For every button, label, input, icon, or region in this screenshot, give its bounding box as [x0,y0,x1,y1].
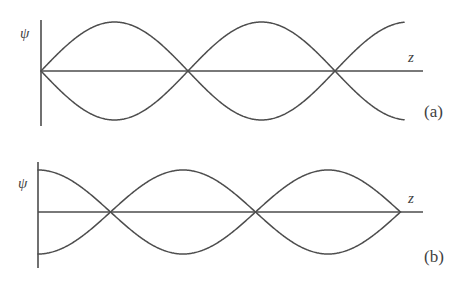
panel-b-z-axis-label: z [407,190,414,206]
panel-b: ψ z (b) [18,162,444,268]
panel-b-label: (b) [424,247,444,266]
panel-a: ψ z (a) [20,20,443,126]
panel-a-psi-axis-label: ψ [20,25,30,41]
wavefunction-figure: ψ z (a) ψ z (b) [0,0,474,283]
panel-a-label: (a) [424,102,443,121]
panel-a-z-axis-label: z [407,49,414,65]
panel-b-psi-axis-label: ψ [18,175,28,191]
